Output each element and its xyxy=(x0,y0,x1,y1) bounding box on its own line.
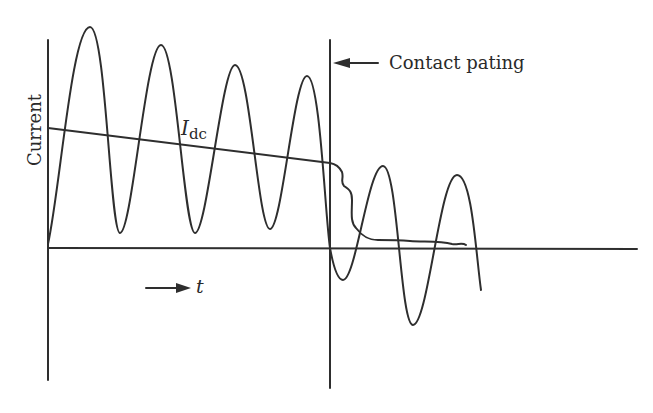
time-label: t xyxy=(196,275,204,297)
contact-parting-annotation: Contact pating xyxy=(389,52,525,73)
dc-label-subscript: dc xyxy=(189,125,207,143)
x-axis xyxy=(48,248,637,249)
current-waveform-diagram: Current Idc t Contact pating xyxy=(0,0,653,413)
annotation-arrow-head-icon xyxy=(333,58,350,68)
dc-current-label: Idc xyxy=(180,116,207,143)
dc-component-line xyxy=(48,128,466,245)
time-arrow-head-icon xyxy=(176,283,191,293)
y-axis-label: Current xyxy=(24,93,45,166)
